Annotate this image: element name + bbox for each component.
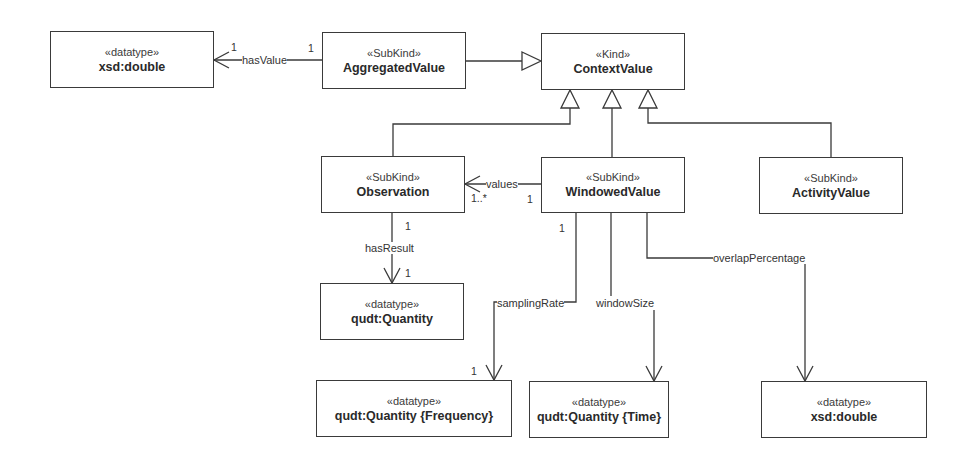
stereotype-label: «SubKind»	[366, 170, 420, 184]
class-name: Observation	[357, 184, 430, 200]
class-xsd-double-top[interactable]: «datatype» xsd:double	[50, 31, 214, 88]
class-aggregated-value[interactable]: «SubKind» AggregatedValue	[322, 32, 466, 89]
hollow-triangle-icon	[561, 90, 579, 108]
hollow-triangle-icon	[639, 90, 657, 108]
association-overlapPercentage-line-top	[647, 212, 713, 258]
stereotype-label: «datatype»	[817, 395, 871, 409]
multiplicity-samplingRate-source: 1	[559, 223, 565, 234]
class-context-value[interactable]: «Kind» ContextValue	[541, 33, 685, 90]
association-label-values: values	[486, 178, 518, 190]
class-name: xsd:double	[811, 409, 878, 425]
stereotype-label: «SubKind»	[804, 171, 858, 185]
association-label-windowSize: windowSize	[596, 297, 654, 309]
generalization-activity-line	[648, 108, 831, 157]
class-qudt-quantity[interactable]: «datatype» qudt:Quantity	[320, 283, 464, 340]
association-label-hasValue: hasValue	[242, 54, 287, 66]
uml-class-diagram: «datatype» xsd:double «SubKind» Aggregat…	[0, 0, 971, 461]
generalization-observation-line	[393, 108, 570, 156]
class-windowed-value[interactable]: «SubKind» WindowedValue	[541, 157, 685, 213]
multiplicity-hasValue-source: 1	[308, 43, 314, 54]
class-qudt-quantity-time[interactable]: «datatype» qudt:Quantity {Time}	[529, 381, 669, 438]
association-label-samplingRate: samplingRate	[497, 297, 564, 309]
multiplicity-hasValue-target: 1	[231, 42, 237, 53]
stereotype-label: «Kind»	[596, 47, 630, 61]
class-name: xsd:double	[99, 59, 166, 75]
class-qudt-quantity-frequency[interactable]: «datatype» qudt:Quantity {Frequency}	[316, 380, 512, 437]
multiplicity-hasResult-target: 1	[405, 268, 411, 279]
class-activity-value[interactable]: «SubKind» ActivityValue	[759, 157, 903, 214]
class-observation[interactable]: «SubKind» Observation	[321, 156, 465, 213]
multiplicity-samplingRate-target: 1	[471, 366, 477, 377]
class-name: ActivityValue	[792, 185, 870, 201]
class-name: qudt:Quantity {Time}	[537, 409, 661, 425]
stereotype-label: «SubKind»	[586, 170, 640, 184]
class-name: qudt:Quantity {Frequency}	[335, 408, 493, 424]
stereotype-label: «datatype»	[365, 297, 419, 311]
association-label-hasResult: hasResult	[365, 242, 414, 254]
class-name: AggregatedValue	[343, 60, 445, 76]
stereotype-label: «datatype»	[387, 394, 441, 408]
class-name: ContextValue	[573, 61, 652, 77]
multiplicity-hasResult-source: 1	[405, 221, 411, 232]
class-xsd-double-bottom[interactable]: «datatype» xsd:double	[761, 381, 927, 438]
stereotype-label: «SubKind»	[367, 46, 421, 60]
stereotype-label: «datatype»	[572, 395, 626, 409]
association-label-overlapPercentage: overlapPercentage	[713, 252, 805, 264]
multiplicity-values-target: 1..*	[471, 193, 487, 204]
stereotype-label: «datatype»	[105, 45, 159, 59]
multiplicity-values-source: 1	[527, 194, 533, 205]
hollow-triangle-icon	[522, 52, 541, 70]
class-name: WindowedValue	[565, 184, 660, 200]
class-name: qudt:Quantity	[351, 311, 433, 327]
hollow-triangle-icon	[603, 90, 621, 108]
association-samplingRate-line	[494, 212, 576, 380]
